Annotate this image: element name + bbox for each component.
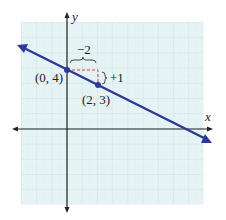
point-2-3 <box>95 82 101 88</box>
x-axis-label: x <box>204 109 211 124</box>
rise-label: +1 <box>110 70 124 85</box>
point-0-4 <box>64 67 70 73</box>
run-label: −2 <box>77 42 91 57</box>
point-label-0-4: (0, 4) <box>35 70 63 85</box>
grid <box>21 22 203 204</box>
y-axis-label: y <box>70 9 78 24</box>
point-label-2-3: (2, 3) <box>82 92 110 107</box>
coordinate-graph: y x −2 +1 (0, 4) (2, 3) <box>0 0 226 220</box>
